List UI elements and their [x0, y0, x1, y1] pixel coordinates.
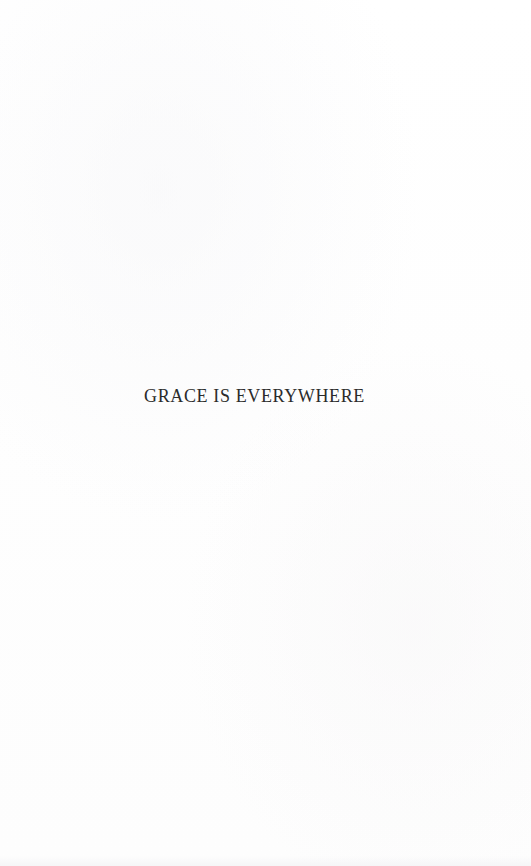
scanned-book-page: GRACE IS EVERYWHERE: [0, 0, 531, 866]
title-block: GRACE IS EVERYWHERE: [0, 385, 531, 407]
page-title: GRACE IS EVERYWHERE: [144, 385, 365, 407]
paper-texture-overlay: [0, 0, 531, 866]
scan-edge-artifact: [0, 856, 531, 866]
